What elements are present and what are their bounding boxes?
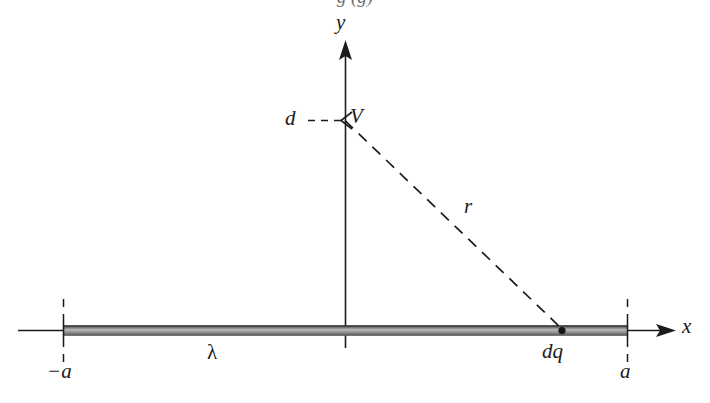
distance-r-line [345, 121, 562, 330]
x-axis-label: x [682, 316, 691, 337]
y-axis-label: y [336, 12, 345, 33]
y-axis [339, 40, 352, 348]
physics-diagram-figure: g (g) [0, 0, 710, 403]
diagram-canvas [0, 0, 710, 403]
rod-body [63, 326, 627, 336]
charge-element-label: dq [542, 341, 563, 362]
field-point-label: V [350, 106, 363, 127]
left-end-label: −a [47, 361, 72, 382]
distance-d-label: d [285, 108, 296, 129]
distance-r-label: r [464, 196, 472, 217]
right-end-label: a [620, 361, 631, 382]
charge-element-dot [558, 327, 565, 334]
charge-density-label: λ [207, 342, 217, 363]
charged-rod [63, 326, 627, 336]
